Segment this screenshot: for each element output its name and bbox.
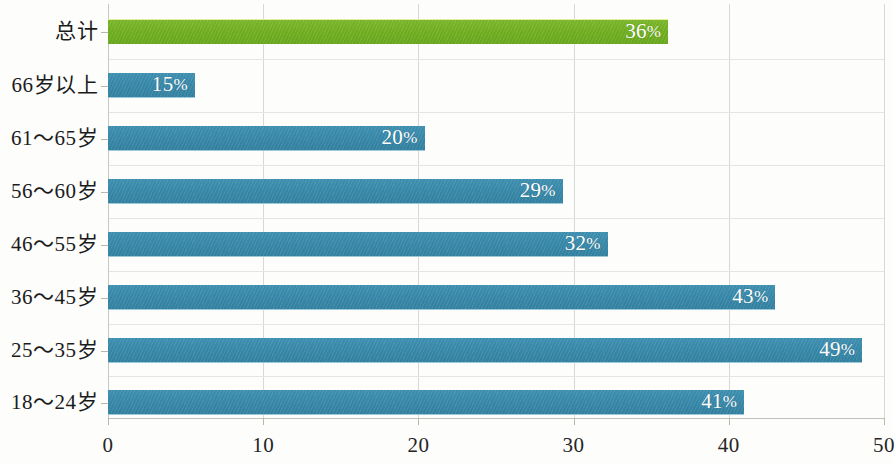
gridline-horizontal xyxy=(108,165,884,166)
category-label: 总计 xyxy=(55,19,98,43)
bar-value-label: 49% xyxy=(819,338,855,361)
y-tick-mark xyxy=(101,139,108,140)
x-tick-label: 0 xyxy=(103,432,114,458)
percent-sign: % xyxy=(403,128,417,147)
y-tick-mark xyxy=(101,245,108,246)
gridline-horizontal xyxy=(108,324,884,325)
x-tick-label: 10 xyxy=(252,432,274,458)
gridline-vertical xyxy=(884,4,885,418)
y-tick-mark xyxy=(101,351,108,352)
bar: 20% xyxy=(108,126,425,151)
category-label: 61～65岁 xyxy=(11,126,98,150)
gridline-horizontal xyxy=(108,59,884,60)
bar: 32% xyxy=(108,232,608,257)
bar-value-label: 29% xyxy=(520,179,556,202)
gridline-horizontal xyxy=(108,112,884,113)
bar: 49% xyxy=(108,338,862,363)
x-tick-label: 50 xyxy=(873,432,895,458)
x-tick-mark xyxy=(574,418,575,425)
category-label: 36～45岁 xyxy=(11,285,98,309)
percent-sign: % xyxy=(841,340,855,359)
bar-value-label: 36% xyxy=(625,20,661,43)
x-tick-mark xyxy=(108,418,109,425)
bar-value-label: 41% xyxy=(701,390,737,413)
y-tick-mark xyxy=(101,32,108,33)
x-tick-mark xyxy=(729,418,730,425)
y-tick-mark xyxy=(101,403,108,404)
category-label: 66岁以上 xyxy=(12,73,99,97)
category-label: 18～24岁 xyxy=(11,390,98,414)
bar-value-label: 43% xyxy=(732,285,768,308)
percent-sign: % xyxy=(647,22,661,41)
x-tick-label: 30 xyxy=(563,432,585,458)
category-label: 25～35岁 xyxy=(11,338,98,362)
category-label: 56～60岁 xyxy=(11,179,98,203)
gridline-horizontal xyxy=(108,271,884,272)
gridline-horizontal xyxy=(108,376,884,377)
percent-sign: % xyxy=(723,392,737,411)
bar-value-label: 20% xyxy=(382,126,418,149)
x-tick-label: 20 xyxy=(407,432,429,458)
bar: 36% xyxy=(108,19,668,44)
percent-sign: % xyxy=(586,234,600,253)
bar: 43% xyxy=(108,285,775,310)
x-tick-mark xyxy=(418,418,419,425)
y-tick-mark xyxy=(101,86,108,87)
gridline-horizontal xyxy=(108,218,884,219)
category-label: 46～55岁 xyxy=(11,232,98,256)
x-tick-mark xyxy=(263,418,264,425)
bar-value-label: 32% xyxy=(565,232,601,255)
x-axis-line xyxy=(108,418,885,419)
bar: 41% xyxy=(108,390,744,415)
y-tick-mark xyxy=(101,192,108,193)
y-tick-mark xyxy=(101,298,108,299)
bar-value-label: 15% xyxy=(152,73,188,96)
percent-sign: % xyxy=(173,75,187,94)
percent-sign: % xyxy=(754,287,768,306)
bar: 15% xyxy=(108,73,195,98)
bar: 29% xyxy=(108,179,563,204)
percent-sign: % xyxy=(541,181,555,200)
x-tick-label: 40 xyxy=(718,432,740,458)
x-tick-mark xyxy=(884,418,885,425)
